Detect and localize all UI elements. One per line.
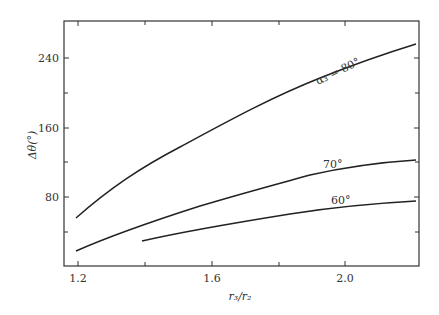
curve-alpha-60 (142, 201, 416, 241)
x-tick-label: 2.0 (336, 272, 354, 285)
plot-frame (64, 21, 419, 266)
x-axis-label: r₃/r₂ (228, 290, 251, 303)
x-tick-label: 1.2 (69, 272, 87, 285)
x-tick-label: 1.6 (203, 272, 221, 285)
curve-label-60: 60° (331, 194, 351, 207)
y-tick-label: 240 (38, 52, 59, 65)
y-tick-label: 80 (45, 191, 59, 204)
x-ticks (78, 21, 345, 266)
curve-alpha-70 (76, 160, 416, 251)
curve-alpha-80 (76, 44, 416, 218)
y-axis-label: Δθ(°) (26, 131, 39, 161)
y-ticks (64, 58, 419, 232)
curve-label-70: 70° (323, 158, 343, 171)
curve-label-80: α₃ = 80° (314, 55, 362, 88)
chart: 1.2 1.6 2.0 80 160 240 r₃/r₂ Δθ(°) α₃ = … (0, 0, 439, 315)
y-tick-label: 160 (38, 122, 59, 135)
